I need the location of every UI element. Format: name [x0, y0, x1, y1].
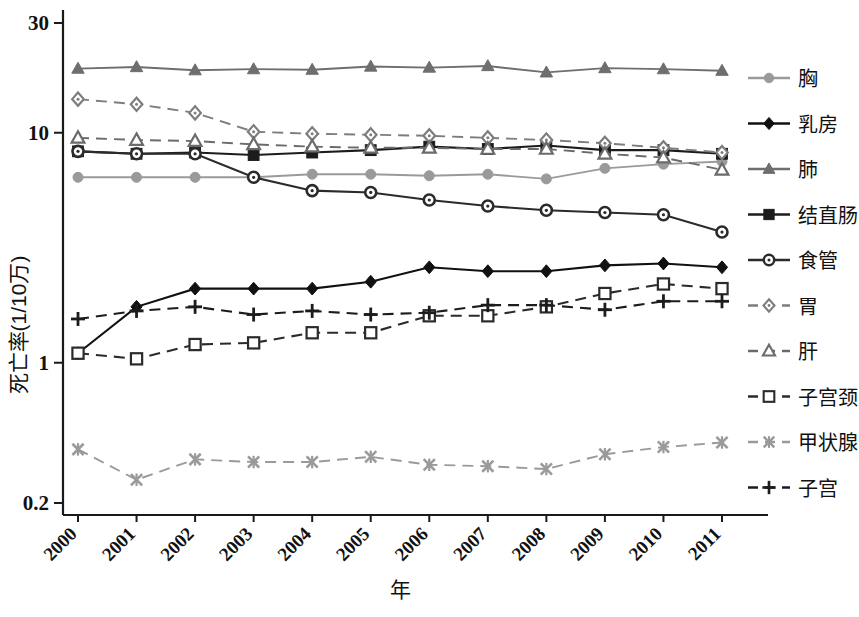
legend: 胸乳房肺结直肠食管胃肝子宫颈甲状腺子宫: [748, 68, 858, 500]
data-point-marker: [307, 169, 317, 179]
x-axis-title: 年: [390, 578, 411, 601]
data-point-marker: [365, 275, 376, 288]
data-point-marker: [599, 288, 610, 299]
legend-item-3[interactable]: 结直肠: [748, 205, 858, 227]
legend-label: 肝: [798, 341, 818, 363]
data-point-marker: [305, 304, 319, 318]
legend-item-9[interactable]: 子宫: [748, 478, 838, 500]
data-point-marker: [131, 353, 142, 364]
data-point-marker: [762, 481, 775, 494]
data-point-marker: [717, 227, 728, 238]
legend-label: 乳房: [798, 114, 838, 136]
x-tick-label: 2010: [625, 523, 667, 565]
data-point-marker: [72, 131, 85, 142]
x-tick-label: 2006: [390, 523, 432, 565]
data-point-marker: [190, 172, 200, 182]
data-point-marker: [541, 265, 552, 278]
series-9: [71, 294, 729, 326]
data-point-marker: [189, 339, 200, 350]
data-point-marker: [72, 443, 83, 455]
data-point-marker: [715, 294, 729, 308]
data-point-marker: [764, 391, 775, 402]
legend-item-5[interactable]: 胃: [748, 296, 818, 318]
data-point-marker: [541, 205, 552, 216]
data-point-marker: [365, 187, 376, 198]
series-0: [73, 156, 727, 183]
legend-label: 结直肠: [798, 205, 858, 227]
legend-item-8[interactable]: 甲状腺: [748, 432, 858, 454]
data-point-marker: [424, 194, 435, 205]
data-point-marker: [131, 148, 142, 159]
y-tick-label: 30: [28, 11, 49, 35]
data-point-marker: [365, 60, 377, 71]
data-point-marker: [307, 327, 318, 338]
y-tick-label: 10: [28, 121, 49, 145]
data-point-marker: [716, 163, 729, 174]
data-point-marker: [132, 172, 142, 182]
y-tick-label: 0.2: [23, 491, 49, 515]
series-line: [78, 99, 722, 152]
data-point-marker: [73, 146, 84, 157]
data-point-marker: [598, 303, 612, 317]
legend-label: 肺: [798, 159, 818, 181]
series-3: [73, 140, 728, 160]
data-point-marker: [424, 171, 434, 181]
data-point-marker: [764, 73, 774, 83]
legend-item-6[interactable]: 肝: [748, 341, 818, 363]
legend-item-1[interactable]: 乳房: [748, 114, 838, 136]
legend-label: 甲状腺: [798, 432, 858, 454]
data-point-marker: [248, 150, 259, 161]
data-point-marker: [307, 282, 318, 295]
data-point-marker: [189, 282, 200, 295]
legend-label: 子宫: [798, 478, 838, 500]
series-line: [78, 442, 722, 479]
series-4: [73, 146, 728, 238]
data-point-marker: [72, 93, 84, 106]
data-point-marker: [131, 474, 142, 486]
data-point-marker: [247, 308, 261, 322]
data-point-marker: [366, 169, 376, 179]
data-point-marker: [306, 140, 319, 151]
legend-item-7[interactable]: 子宫颈: [748, 387, 858, 409]
legend-item-2[interactable]: 肺: [748, 159, 818, 181]
series-2: [72, 60, 728, 77]
data-point-marker: [658, 257, 669, 270]
x-tick-label: 2004: [273, 523, 315, 565]
data-point-marker: [248, 337, 259, 348]
data-point-marker: [716, 283, 727, 294]
data-point-marker: [763, 299, 774, 312]
data-point-marker: [764, 117, 775, 129]
data-point-marker: [364, 308, 378, 322]
legend-item-4[interactable]: 食管: [748, 250, 838, 272]
data-point-marker: [483, 169, 493, 179]
x-tick-label: 2007: [449, 523, 491, 565]
x-tick-label: 2002: [156, 523, 198, 565]
x-tick-label: 2003: [215, 523, 257, 565]
data-point-marker: [599, 259, 610, 272]
data-point-marker: [248, 172, 259, 183]
legend-item-0[interactable]: 胸: [748, 68, 818, 90]
y-axis-title: 死亡率(1/10万): [7, 256, 30, 395]
data-point-marker: [599, 62, 611, 73]
data-point-marker: [764, 209, 774, 219]
data-point-marker: [190, 148, 201, 159]
series-line: [78, 66, 722, 72]
x-tick-label: 2008: [507, 523, 549, 565]
x-tick-label: 2000: [39, 523, 81, 565]
data-point-marker: [656, 294, 670, 308]
data-point-marker: [600, 163, 610, 173]
legend-label: 胸: [798, 68, 818, 90]
legend-label: 食管: [798, 250, 838, 272]
data-point-marker: [188, 300, 202, 314]
data-point-marker: [71, 312, 85, 326]
data-point-marker: [482, 60, 494, 71]
chart-canvas: 301010.2死亡率(1/10万)2000200120022003200420…: [0, 0, 859, 617]
plot-area: [71, 60, 729, 486]
series-7: [72, 278, 727, 364]
series-8: [72, 436, 727, 486]
data-point-marker: [482, 201, 493, 212]
data-point-marker: [72, 348, 83, 359]
data-point-marker: [658, 278, 669, 289]
series-line: [78, 151, 722, 232]
data-point-marker: [482, 265, 493, 278]
